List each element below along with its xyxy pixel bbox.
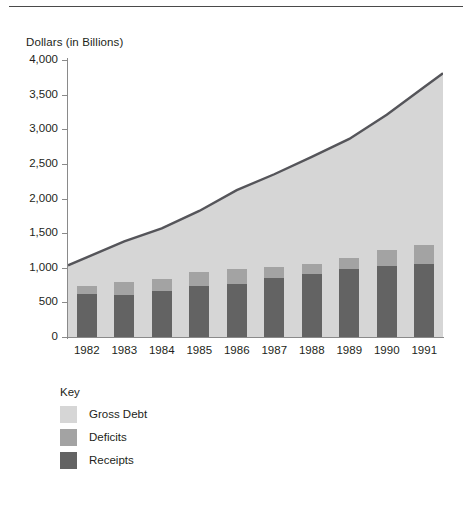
bar-1984: [152, 279, 172, 337]
y-tick-label: 500: [0, 296, 58, 308]
bar-segment-receipts: [377, 266, 397, 337]
bar-1987: [264, 267, 284, 337]
bar-segment-deficits: [264, 267, 284, 277]
legend-item-label: Receipts: [89, 454, 134, 466]
bar-segment-deficits: [414, 245, 434, 264]
bar-segment-deficits: [152, 279, 172, 291]
bar-1991: [414, 245, 434, 337]
bar-1983: [114, 282, 134, 337]
bar-segment-receipts: [189, 286, 209, 337]
x-tick-label-1985: 1985: [179, 344, 219, 356]
bar-segment-receipts: [227, 284, 247, 337]
legend-item-receipts: Receipts: [60, 450, 147, 470]
y-axis-tick-labels: 05001,0001,5002,0002,5003,0003,5004,000: [0, 0, 58, 506]
x-tick-label-1983: 1983: [104, 344, 144, 356]
legend-rows: Gross DebtDeficitsReceipts: [60, 404, 147, 470]
bar-segment-receipts: [339, 269, 359, 337]
x-tick-label-1991: 1991: [404, 344, 444, 356]
y-tick-label: 1,000: [0, 262, 58, 274]
legend-item-deficits: Deficits: [60, 427, 147, 447]
legend-item-gross-debt: Gross Debt: [60, 404, 147, 424]
y-tick-label: 2,000: [0, 193, 58, 205]
bar-1988: [302, 264, 322, 337]
y-tick-label: 1,500: [0, 227, 58, 239]
y-tick-label: 3,500: [0, 89, 58, 101]
bar-1986: [227, 269, 247, 337]
bar-segment-deficits: [339, 258, 359, 268]
y-tick-3000: [62, 129, 68, 130]
bar-1985: [189, 272, 209, 337]
legend-swatch-icon: [60, 406, 77, 423]
bar-segment-deficits: [227, 269, 247, 284]
y-tick-2000: [62, 199, 68, 200]
y-tick-label: 0: [0, 331, 58, 343]
bar-segment-receipts: [152, 291, 172, 337]
bar-segment-receipts: [114, 295, 134, 337]
chart-legend: Key Gross DebtDeficitsReceipts: [60, 386, 147, 473]
bar-segment-receipts: [414, 264, 434, 337]
y-tick-500: [62, 302, 68, 303]
legend-title: Key: [60, 386, 147, 398]
bar-segment-deficits: [302, 264, 322, 274]
x-tick-label-1989: 1989: [329, 344, 369, 356]
bar-segment-deficits: [77, 286, 97, 294]
header-rule: [9, 6, 463, 7]
y-tick-2500: [62, 164, 68, 165]
bar-segment-deficits: [377, 250, 397, 265]
x-tick-label-1990: 1990: [367, 344, 407, 356]
y-tick-label: 3,000: [0, 123, 58, 135]
y-tick-0: [62, 337, 68, 338]
x-tick-label-1982: 1982: [67, 344, 107, 356]
y-tick-3500: [62, 95, 68, 96]
y-tick-1000: [62, 268, 68, 269]
bar-segment-receipts: [264, 278, 284, 337]
x-tick-label-1984: 1984: [142, 344, 182, 356]
bar-segment-deficits: [189, 272, 209, 287]
legend-swatch-icon: [60, 429, 77, 446]
legend-swatch-icon: [60, 452, 77, 469]
y-tick-1500: [62, 233, 68, 234]
x-tick-label-1988: 1988: [292, 344, 332, 356]
y-tick-label: 2,500: [0, 158, 58, 170]
x-axis-line: [67, 337, 444, 338]
bar-1989: [339, 258, 359, 337]
bar-segment-receipts: [302, 274, 322, 337]
legend-item-label: Deficits: [89, 431, 127, 443]
x-tick-label-1986: 1986: [217, 344, 257, 356]
y-tick-4000: [62, 60, 68, 61]
legend-item-label: Gross Debt: [89, 408, 147, 420]
x-tick-label-1987: 1987: [254, 344, 294, 356]
bar-segment-receipts: [77, 294, 97, 337]
bar-1982: [77, 286, 97, 337]
y-tick-label: 4,000: [0, 54, 58, 66]
chart-figure: Dollars (in Billions) 05001,0001,5002,00…: [0, 0, 472, 506]
bar-1990: [377, 250, 397, 337]
bar-segment-deficits: [114, 282, 134, 296]
